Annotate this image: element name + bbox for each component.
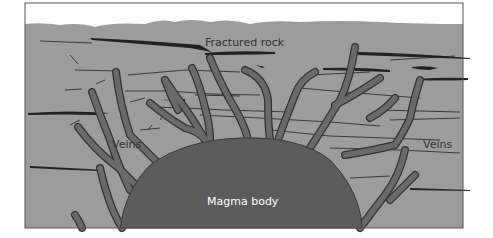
- label-veins-left: Veins: [112, 138, 141, 151]
- label-veins-right: Veins: [423, 138, 452, 151]
- label-magma-body: Magma body: [207, 195, 279, 208]
- label-fractured-rock: Fractured rock: [205, 36, 285, 49]
- geology-diagram: Fractured rock Veins Veins Magma body: [0, 0, 493, 238]
